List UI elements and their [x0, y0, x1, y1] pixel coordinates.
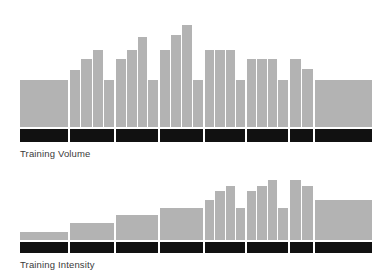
phase-block-volume-6 — [247, 129, 290, 142]
bar-intensity-3-1 — [116, 215, 158, 240]
bar-volume-5-1 — [205, 50, 215, 127]
bar-group-intensity-5 — [205, 176, 247, 240]
bar-volume-6-3 — [268, 59, 278, 127]
phase-block-volume-2 — [70, 129, 116, 142]
bar-group-volume-2 — [70, 10, 116, 127]
bar-intensity-5-4 — [236, 208, 245, 240]
phase-block-intensity-2 — [70, 242, 116, 253]
bar-volume-6-1 — [247, 59, 257, 127]
bar-intensity-6-2 — [257, 186, 267, 240]
bar-intensity-4-1 — [160, 208, 203, 240]
bar-volume-1-1 — [20, 80, 68, 127]
bar-volume-8-1 — [315, 80, 372, 127]
phase-block-volume-4 — [160, 129, 205, 142]
phase-block-intensity-8 — [315, 242, 372, 253]
bar-volume-3-3 — [138, 37, 149, 127]
phase-block-volume-8 — [315, 129, 372, 142]
phase-block-volume-3 — [116, 129, 160, 142]
chart-label-volume: Training Volume — [20, 149, 372, 159]
bar-volume-6-4 — [278, 80, 287, 127]
chart-label-intensity: Training Intensity — [20, 260, 372, 270]
bar-group-volume-8 — [315, 10, 372, 127]
plot-area-volume — [20, 10, 372, 127]
bar-group-volume-1 — [20, 10, 70, 127]
bar-segments-volume — [20, 10, 372, 127]
bar-intensity-7-2 — [302, 186, 313, 240]
bar-group-intensity-1 — [20, 176, 70, 240]
phase-block-intensity-5 — [205, 242, 247, 253]
phase-block-intensity-6 — [247, 242, 290, 253]
bar-group-volume-4 — [160, 10, 205, 127]
chart-page: Training Volume Training Intensity — [0, 0, 388, 278]
bar-volume-4-2 — [171, 35, 182, 127]
bar-segments-intensity — [20, 176, 372, 240]
phase-block-volume-7 — [290, 129, 315, 142]
bar-intensity-6-4 — [278, 208, 287, 240]
phase-block-intensity-1 — [20, 242, 70, 253]
bar-volume-3-2 — [127, 50, 138, 127]
bar-group-intensity-7 — [290, 176, 315, 240]
bar-volume-7-2 — [302, 69, 313, 128]
bar-volume-5-3 — [226, 50, 236, 127]
bar-group-volume-5 — [205, 10, 247, 127]
bar-group-intensity-4 — [160, 176, 205, 240]
bar-intensity-6-3 — [268, 180, 278, 240]
bar-group-intensity-8 — [315, 176, 372, 240]
phase-block-intensity-4 — [160, 242, 205, 253]
bar-group-intensity-2 — [70, 176, 116, 240]
phase-block-volume-1 — [20, 129, 70, 142]
bar-volume-2-3 — [93, 50, 104, 127]
phase-band-volume — [20, 129, 372, 142]
bar-volume-4-1 — [160, 50, 171, 127]
bar-group-volume-7 — [290, 10, 315, 127]
bar-volume-5-4 — [236, 80, 245, 127]
chart-training-intensity: Training Intensity — [20, 176, 372, 270]
phase-band-intensity — [20, 242, 372, 253]
bar-volume-5-2 — [215, 50, 225, 127]
bar-volume-2-1 — [70, 70, 81, 127]
bar-volume-4-3 — [182, 25, 193, 127]
phase-block-intensity-3 — [116, 242, 160, 253]
bar-intensity-8-1 — [315, 200, 372, 240]
bar-intensity-7-1 — [290, 180, 302, 240]
chart-training-volume: Training Volume — [20, 10, 372, 159]
bar-intensity-5-3 — [226, 186, 236, 240]
bar-group-volume-6 — [247, 10, 290, 127]
bar-group-volume-3 — [116, 10, 160, 127]
bar-volume-3-1 — [116, 59, 127, 127]
bar-group-intensity-3 — [116, 176, 160, 240]
bar-group-intensity-6 — [247, 176, 290, 240]
phase-block-volume-5 — [205, 129, 247, 142]
bar-intensity-5-1 — [205, 200, 215, 240]
bar-intensity-1-1 — [20, 232, 68, 240]
bar-intensity-2-1 — [70, 223, 114, 240]
bar-volume-2-4 — [104, 80, 114, 127]
bar-volume-4-4 — [193, 80, 203, 127]
bar-volume-2-2 — [81, 59, 92, 127]
bar-volume-6-2 — [257, 59, 267, 127]
bar-volume-3-4 — [148, 80, 158, 127]
plot-area-intensity — [20, 176, 372, 240]
phase-block-intensity-7 — [290, 242, 315, 253]
bar-intensity-6-1 — [247, 191, 257, 240]
bar-intensity-5-2 — [215, 191, 225, 240]
bar-volume-7-1 — [290, 59, 302, 127]
